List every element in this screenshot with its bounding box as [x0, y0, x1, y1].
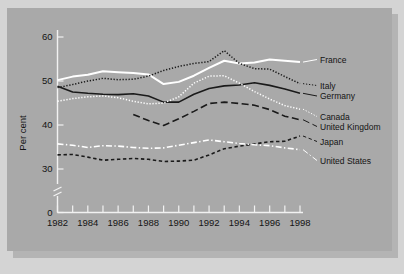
legend-label-france: France — [320, 55, 347, 65]
legend-leader-italy — [303, 84, 317, 86]
axis-break-mark — [54, 187, 62, 196]
x-tick-label: 1994 — [229, 217, 250, 228]
series-line-united-kingdom — [133, 102, 300, 125]
x-axis: 198219841986198819901992199419961998 — [47, 206, 311, 228]
legend-leader-canada — [303, 109, 317, 116]
x-tick-label: 1986 — [108, 217, 129, 228]
chart-legend: FranceItalyGermanyCanadaUnited KingdomJa… — [303, 55, 380, 166]
figure-root: 605040300 198219841986198819901992199419… — [0, 0, 404, 274]
legend-leader-united-kingdom — [303, 120, 317, 127]
x-tick-label: 1998 — [289, 217, 310, 228]
x-tick-label: 1988 — [138, 217, 159, 228]
legend-label-italy: Italy — [320, 81, 336, 91]
legend-label-united-kingdom: United Kingdom — [320, 122, 380, 132]
y-axis-title-text: Per cent — [17, 115, 28, 151]
y-tick-label: 50 — [42, 75, 53, 86]
x-tick-label: 1984 — [77, 217, 98, 228]
series-line-united-states — [58, 140, 301, 150]
y-tick-label: 40 — [42, 119, 53, 130]
y-axis-title: Per cent — [17, 115, 28, 151]
legend-leader-germany — [303, 93, 317, 96]
y-tick-label: 30 — [42, 163, 53, 174]
x-tick-label: 1990 — [168, 217, 189, 228]
series-lines — [58, 51, 301, 162]
series-line-germany — [58, 83, 301, 102]
y-axis: 605040300 — [42, 30, 64, 218]
x-tick-label: 1996 — [259, 217, 280, 228]
x-tick-label: 1982 — [47, 217, 68, 228]
legend-label-japan: Japan — [320, 137, 343, 147]
series-line-canada — [58, 76, 301, 109]
line-chart: 605040300 198219841986198819901992199419… — [0, 0, 404, 274]
legend-label-canada: Canada — [320, 112, 350, 122]
x-tick-label: 1992 — [198, 217, 219, 228]
y-tick-label: 60 — [42, 31, 53, 42]
legend-label-germany: Germany — [320, 91, 356, 101]
series-line-japan — [58, 136, 301, 162]
legend-leader-japan — [303, 136, 317, 142]
legend-leader-france — [303, 60, 317, 63]
legend-leader-united-states — [303, 150, 317, 161]
legend-label-united-states: United States — [320, 156, 371, 166]
